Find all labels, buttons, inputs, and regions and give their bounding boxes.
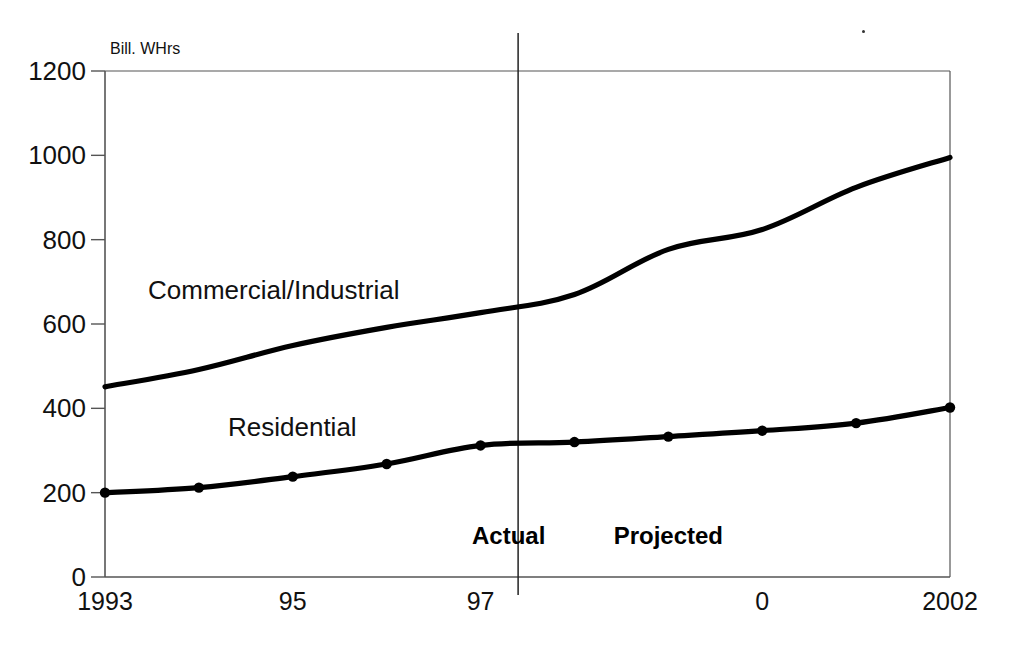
y-axis-tick-label: 400 [0,393,86,424]
series-label-commercial-industrial: Commercial/Industrial [148,275,399,306]
y-axis-tick-label: 200 [0,477,86,508]
y-axis-tick-label: 1200 [0,56,86,87]
y-axis-tick-label: 1000 [0,140,86,171]
y-axis-tick-label: 800 [0,224,86,255]
series-label-residential: Residential [228,412,357,443]
data-series [100,157,955,497]
y-axis-unit-label: Bill. WHrs [110,40,180,58]
y-axis-tick-label: 600 [0,309,86,340]
annotation-projected: Projected [614,522,723,550]
x-axis-tick-label: 97 [421,587,541,616]
x-axis-tick-label: 2002 [890,587,1009,616]
chart-figure: Bill. WHrs 020040060080010001200 1993959… [0,0,1009,646]
x-axis-tick-label: 1993 [45,587,165,616]
axes [105,71,950,577]
annotation-actual: Actual [472,522,545,550]
stray-speck-icon [862,30,865,33]
x-axis-tick-label: 0 [702,587,822,616]
tick-marks [91,71,105,577]
x-axis-tick-label: 95 [233,587,353,616]
